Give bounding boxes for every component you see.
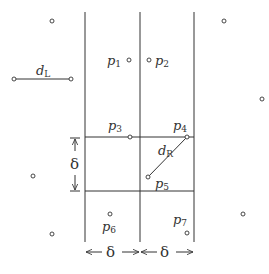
point-outer [241, 212, 245, 216]
label-p1: p1 [107, 53, 121, 69]
delta-right-label: δ [160, 243, 169, 261]
point-p6 [108, 212, 112, 216]
label-dL: dL [36, 63, 50, 79]
label-p3: p3 [108, 118, 122, 134]
closest-pair-diagram: p1 p2 p3 p4 p5 p6 p7 dL dR δ δ δ [0, 0, 269, 274]
point-p1 [127, 58, 131, 62]
point-dL-end [69, 77, 73, 81]
point-dL-start [12, 77, 16, 81]
point-p4 [185, 135, 189, 139]
label-p4: p4 [173, 118, 187, 134]
point-outer [260, 97, 264, 101]
label-dR: dR [158, 143, 173, 159]
point-outer [222, 19, 226, 23]
label-p6: p6 [102, 219, 116, 235]
label-p7: p7 [173, 212, 187, 228]
delta-vertical-label: δ [70, 155, 79, 173]
point-p2 [147, 58, 151, 62]
delta-left-label: δ [106, 243, 115, 261]
point-outer [31, 174, 35, 178]
label-p2: p2 [155, 53, 169, 69]
point-outer [50, 232, 54, 236]
point-p3 [128, 135, 132, 139]
point-outer [50, 19, 54, 23]
point-p7 [185, 231, 189, 235]
label-p5: p5 [155, 176, 169, 192]
point-p5 [146, 175, 150, 179]
